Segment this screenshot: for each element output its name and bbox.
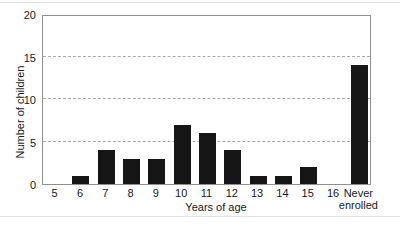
bar-6	[72, 176, 89, 185]
bar-15	[300, 167, 317, 184]
figure: Number of children 05101520 567891011121…	[0, 0, 400, 225]
plot-area	[42, 15, 371, 185]
bar-8	[123, 159, 140, 185]
bar-7	[98, 150, 115, 184]
gridline-15	[43, 56, 370, 57]
gridline-10	[43, 98, 370, 99]
y-tick-label-20: 20	[0, 10, 36, 21]
bar-13	[250, 176, 267, 185]
bar-10	[174, 125, 191, 185]
bar-14	[275, 176, 292, 185]
y-tick-label-10: 10	[0, 95, 36, 106]
y-tick-label-15: 15	[0, 52, 36, 63]
bar-11	[199, 133, 216, 184]
bar-Never enrolled	[351, 65, 368, 184]
bottom-rule	[0, 216, 400, 217]
y-tick-label-5: 5	[0, 137, 36, 148]
bar-12	[224, 150, 241, 184]
x-axis-title: Years of age	[185, 201, 246, 213]
bar-9	[148, 159, 165, 185]
x-tick-label-Never enrolled: Never enrolled	[333, 187, 383, 211]
top-rule	[0, 2, 400, 3]
